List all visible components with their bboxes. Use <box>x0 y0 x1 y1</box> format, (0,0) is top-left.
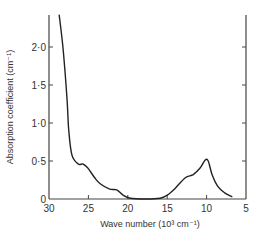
absorption-curve <box>59 15 232 199</box>
y-tick-label: 1·0 <box>32 118 47 129</box>
y-tick-label: 0·5 <box>32 156 47 167</box>
x-tick-label: 30 <box>43 203 55 214</box>
x-axis-label: Wave number (10³ cm⁻¹) <box>100 219 200 229</box>
x-tick-label: 25 <box>83 203 95 214</box>
x-tick-label: 20 <box>122 203 134 214</box>
y-tick-label: 1·5 <box>32 80 47 91</box>
x-tick-label: 5 <box>243 203 249 214</box>
y-tick-label: 2·0 <box>32 42 47 53</box>
absorption-chart: 30252015105 00·51·01·52·0 Wave number (1… <box>0 0 261 239</box>
x-tick-label: 15 <box>162 203 174 214</box>
y-axis-label: Absorption coefficient (cm⁻¹) <box>5 50 15 164</box>
x-ticks: 30252015105 <box>43 195 249 214</box>
x-tick-label: 10 <box>201 203 213 214</box>
plot-frame <box>49 15 246 199</box>
y-tick-label: 0 <box>40 194 46 205</box>
